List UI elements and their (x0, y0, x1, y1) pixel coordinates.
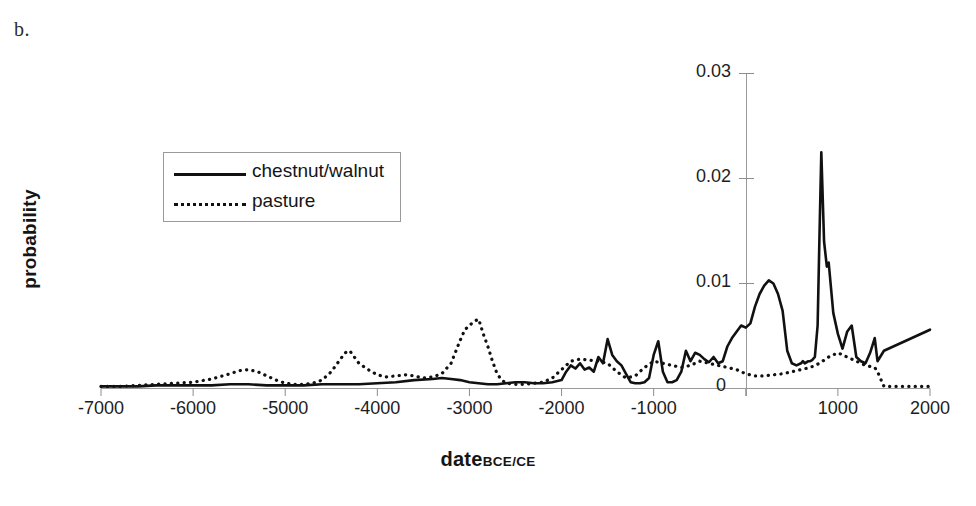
y-axis-tick-label: 0.01 (645, 271, 731, 292)
x-axis-tick-label: -4000 (327, 398, 427, 419)
legend-swatch-solid-line-icon (174, 173, 246, 176)
legend-item-chestnut-walnut: chestnut/walnut (164, 159, 402, 189)
legend-label-pasture: pasture (252, 190, 315, 212)
x-axis-tick-label: -5000 (235, 398, 335, 419)
legend-swatch-dotted-line-icon (174, 203, 246, 206)
legend: chestnut/walnut pasture (163, 152, 401, 222)
legend-label-chestnut-walnut: chestnut/walnut (252, 160, 384, 182)
x-axis-ticks (101, 389, 930, 397)
legend-item-pasture: pasture (164, 189, 402, 219)
x-axis-tick-label: -1000 (604, 398, 704, 419)
x-axis-tick-label: -2000 (512, 398, 612, 419)
x-axis-tick-label: -6000 (143, 398, 243, 419)
x-axis-tick-label: -7000 (51, 398, 151, 419)
x-axis-tick-label: -3000 (419, 398, 519, 419)
figure-panel: b. probability dateBCE/CE -7000-6000-500… (0, 0, 976, 506)
x-axis-tick-label: 1000 (788, 398, 888, 419)
x-axis-tick-label: 2000 (880, 398, 976, 419)
axis-group (101, 74, 930, 397)
y-axis-tick-label: 0.03 (645, 61, 731, 82)
series-line-pasture (101, 319, 930, 386)
plot-canvas (0, 0, 976, 506)
y-axis-tick-label: 0.02 (645, 166, 731, 187)
origin-tick-label: 0 (716, 375, 726, 396)
